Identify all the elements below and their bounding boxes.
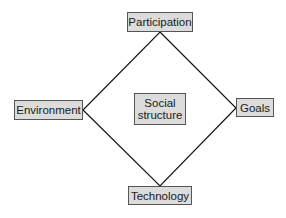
node-environment: Environment [14,100,83,120]
center-label-line2: structure [138,109,183,121]
node-label: Goals [240,102,270,114]
node-label: Participation [128,16,191,28]
node-social-structure: Social structure [134,93,186,125]
node-label: Technology [131,190,189,202]
node-technology: Technology [128,186,192,205]
center-label-line1: Social [144,97,175,109]
node-goals: Goals [236,98,274,117]
node-label: Environment [16,104,81,116]
node-participation: Participation [127,12,193,32]
